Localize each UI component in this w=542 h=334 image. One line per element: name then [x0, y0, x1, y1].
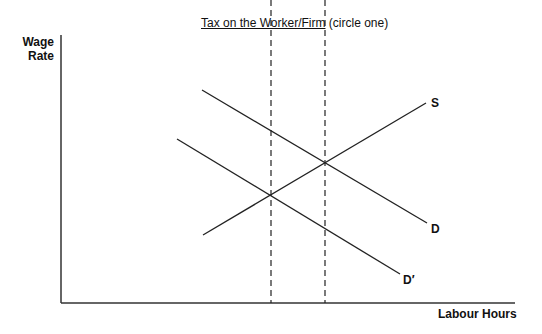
title-underlined[interactable]: Tax on the Worker/Firm — [201, 16, 325, 30]
y-axis-label-line1: Wage — [18, 35, 54, 49]
y-axis-label-line2: Rate — [18, 49, 54, 63]
demand-shifted-label: D′ — [403, 273, 415, 287]
x-axis-label: Labour Hours — [438, 307, 517, 321]
supply-curve — [203, 103, 426, 235]
demand-shifted-curve — [177, 139, 400, 274]
supply-label: S — [431, 96, 439, 110]
title-suffix: (circle one) — [325, 16, 388, 30]
supply-demand-diagram — [0, 0, 542, 334]
diagram-title: Tax on the Worker/Firm (circle one) — [201, 16, 388, 30]
y-axis-label: Wage Rate — [18, 35, 54, 63]
demand-label: D — [431, 222, 440, 236]
demand-curve — [202, 90, 427, 223]
